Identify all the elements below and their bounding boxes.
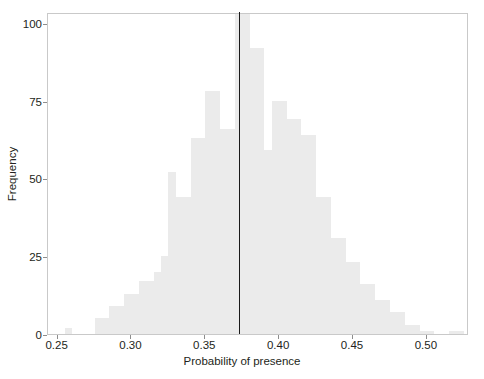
histogram-bar	[287, 119, 294, 334]
y-axis-ticks: 0255075100	[0, 0, 42, 348]
histogram-bar	[109, 306, 116, 334]
histogram-bar	[346, 262, 353, 334]
x-tick-mark	[278, 335, 279, 339]
histogram-bar	[338, 238, 345, 334]
histogram-bar	[227, 129, 234, 334]
histogram-bar	[397, 312, 404, 334]
histogram-bar	[161, 256, 168, 334]
plot-area	[47, 13, 468, 335]
y-tick-label: 0	[36, 329, 42, 341]
histogram-bar	[331, 238, 338, 334]
y-tick-label: 100	[23, 18, 42, 30]
histogram-bar	[242, 14, 249, 334]
x-tick-label: 0.50	[415, 339, 437, 351]
histogram-bar	[146, 281, 153, 334]
histogram-bar	[390, 312, 397, 334]
histogram-bar	[323, 197, 330, 334]
y-tick-label: 50	[29, 173, 42, 185]
histogram-bar	[294, 119, 301, 334]
histogram-bar	[176, 197, 183, 334]
x-tick-label: 0.30	[119, 339, 141, 351]
histogram-bar	[250, 48, 257, 334]
x-tick-mark	[352, 335, 353, 339]
histogram-bar	[449, 331, 456, 334]
histogram-bar	[368, 284, 375, 334]
x-tick-label: 0.35	[193, 339, 215, 351]
histogram-bar	[139, 281, 146, 334]
histogram-bar	[205, 91, 212, 334]
histogram-bar	[65, 328, 72, 334]
histogram-bar	[353, 262, 360, 334]
histogram-bar	[427, 331, 434, 334]
histogram-bar	[375, 300, 382, 334]
histogram-bar	[191, 138, 198, 334]
y-tick-label: 25	[29, 251, 42, 263]
histogram-bar	[420, 331, 427, 334]
histogram-bar	[405, 325, 412, 334]
histogram-bar	[383, 300, 390, 334]
histogram-bar	[131, 294, 138, 334]
x-tick-label: 0.25	[45, 339, 67, 351]
histogram-bar	[213, 91, 220, 334]
histogram-bar	[309, 135, 316, 334]
x-tick-mark	[57, 335, 58, 339]
histogram-bar	[102, 318, 109, 334]
histogram-bar	[257, 48, 264, 334]
histogram-bar	[360, 284, 367, 334]
histogram-bars	[48, 14, 467, 334]
histogram-bar	[95, 318, 102, 334]
histogram-bar	[264, 150, 271, 334]
x-tick-mark	[130, 335, 131, 339]
x-tick-mark	[426, 335, 427, 339]
x-axis-label: Probability of presence	[0, 355, 484, 367]
histogram-bar	[168, 172, 175, 334]
histogram-bar	[316, 197, 323, 334]
histogram-bar	[124, 294, 131, 334]
y-tick-mark	[43, 335, 47, 336]
histogram-figure: Frequency 0255075100 0.250.300.350.400.4…	[0, 0, 484, 379]
histogram-bar	[456, 331, 463, 334]
x-tick-mark	[204, 335, 205, 339]
x-tick-label: 0.40	[267, 339, 289, 351]
vertical-reference-line	[239, 12, 241, 334]
histogram-bar	[272, 101, 279, 334]
histogram-bar	[183, 197, 190, 334]
histogram-bar	[220, 129, 227, 334]
histogram-bar	[198, 138, 205, 334]
histogram-bar	[117, 306, 124, 334]
y-tick-label: 75	[29, 96, 42, 108]
x-tick-label: 0.45	[341, 339, 363, 351]
histogram-bar	[154, 272, 161, 334]
histogram-bar	[279, 101, 286, 334]
histogram-bar	[412, 325, 419, 334]
histogram-bar	[301, 135, 308, 334]
